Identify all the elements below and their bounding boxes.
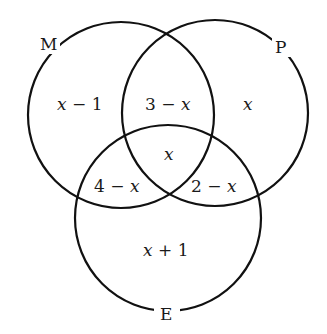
region-p-e: 2 − x [191,176,237,196]
set-label-e: E [160,304,172,324]
venn-diagram: M P E x − 1 3 − x x x 4 − x 2 − x x + 1 [0,0,327,334]
region-m-e: 4 − x [94,176,140,196]
region-m-p: 3 − x [145,94,191,114]
region-e-only: x + 1 [143,240,188,260]
set-label-p: P [275,37,286,57]
region-m-p-e: x [164,144,174,164]
region-m-only: x − 1 [57,94,102,114]
set-label-m: M [40,34,57,54]
region-p-only: x [243,94,253,114]
